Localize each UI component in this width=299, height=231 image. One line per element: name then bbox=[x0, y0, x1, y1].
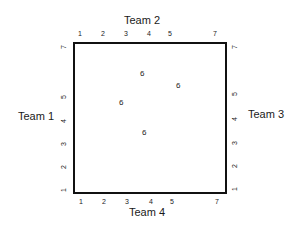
right-tick: 4 bbox=[231, 114, 239, 124]
left-tick: 7 bbox=[60, 42, 68, 52]
right-tick: 1 bbox=[231, 184, 239, 194]
left-tick: 1 bbox=[60, 185, 68, 195]
bottom-tick: 4 bbox=[146, 198, 156, 206]
team-2-label: Team 2 bbox=[124, 14, 160, 26]
bottom-tick: 2 bbox=[99, 198, 109, 206]
top-tick: 4 bbox=[144, 30, 154, 38]
team-3-label: Team 3 bbox=[248, 108, 284, 120]
top-tick: 5 bbox=[165, 30, 175, 38]
right-tick: 2 bbox=[231, 161, 239, 171]
bottom-tick: 3 bbox=[122, 198, 132, 206]
team-4-label: Team 4 bbox=[129, 206, 165, 218]
inner-label: 6 bbox=[119, 98, 123, 107]
field-box bbox=[73, 42, 227, 194]
inner-label: 6 bbox=[176, 81, 180, 90]
right-tick: 5 bbox=[231, 89, 239, 99]
top-tick: 3 bbox=[121, 30, 131, 38]
left-tick: 4 bbox=[60, 116, 68, 126]
bottom-tick: 1 bbox=[76, 198, 86, 206]
bottom-tick: 7 bbox=[212, 198, 222, 206]
top-tick: 7 bbox=[210, 30, 220, 38]
top-tick: 2 bbox=[98, 30, 108, 38]
top-tick: 1 bbox=[75, 30, 85, 38]
team-1-label: Team 1 bbox=[18, 110, 54, 122]
inner-label: 6 bbox=[142, 128, 146, 137]
right-tick: 3 bbox=[231, 138, 239, 148]
left-tick: 2 bbox=[60, 162, 68, 172]
bottom-tick: 5 bbox=[167, 198, 177, 206]
inner-label: 6 bbox=[140, 69, 144, 78]
left-tick: 3 bbox=[60, 139, 68, 149]
right-tick: 7 bbox=[231, 42, 239, 52]
left-tick: 5 bbox=[60, 92, 68, 102]
